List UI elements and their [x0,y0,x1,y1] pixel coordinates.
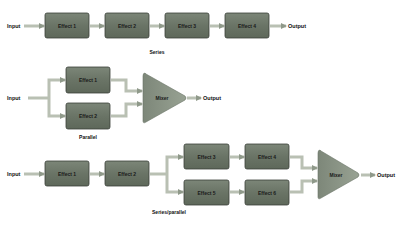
arrow-icon [167,174,183,192]
parallel-caption: Parallel [79,134,97,140]
arrow-icon [111,80,142,91]
series-effect-4-label: Effect 4 [238,23,256,29]
sp-mixer-label: Mixer [329,172,342,178]
sp-output-label: Output [377,172,395,178]
parallel-chain: Input Effect 1 Effect 2 Mixer Output Par… [7,67,221,140]
sp-effect-2-label: Effect 2 [118,171,136,177]
parallel-mixer-label: Mixer [155,95,168,101]
series-chain: Input Effect 1 Effect 2 Effect 3 Effect … [7,13,306,55]
series-input-label: Input [7,23,21,29]
series-effect-1-label: Effect 1 [58,23,76,29]
arrow-icon [49,98,65,116]
series-output-label: Output [288,23,306,29]
arrow-icon [290,181,317,192]
sp-caption: Series/parallel [152,209,187,215]
arrow-icon [290,157,317,168]
sp-effect-5-label: Effect 5 [197,190,215,196]
arrow-icon [167,157,183,174]
series-effect-3-label: Effect 3 [178,23,196,29]
arrow-icon [49,80,65,98]
sp-effect-6-label: Effect 6 [258,190,276,196]
parallel-input-label: Input [7,95,21,101]
parallel-effect-1-label: Effect 1 [79,77,97,83]
signal-chain-diagram: Input Effect 1 Effect 2 Effect 3 Effect … [0,0,402,231]
sp-effect-4-label: Effect 4 [258,154,276,160]
parallel-output-label: Output [203,95,221,101]
parallel-effect-2-label: Effect 2 [79,113,97,119]
sp-effect-1-label: Effect 1 [58,171,76,177]
arrow-icon [111,104,142,116]
sp-effect-3-label: Effect 3 [197,154,215,160]
series-caption: Series [149,49,164,55]
series-effect-2-label: Effect 2 [118,23,136,29]
sp-input-label: Input [7,171,21,177]
series-parallel-chain: Input Effect 1 Effect 2 Effect 3 Effect … [7,144,395,215]
